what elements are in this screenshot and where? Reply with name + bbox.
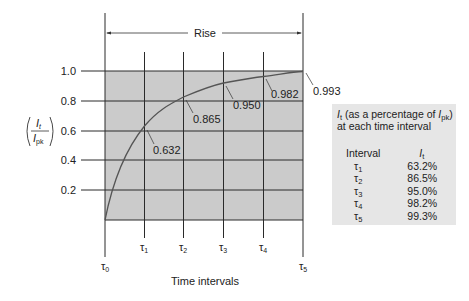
x-axis-label: Time intervals [171, 275, 240, 287]
point-label-2: 0.865 [193, 113, 221, 125]
svg-text:τ1: τ1 [140, 241, 148, 254]
y-tick: 0.4 [61, 154, 76, 166]
col-it: It [407, 147, 456, 160]
table-row: τ286.5% [346, 172, 456, 185]
point-label-4: 0.982 [271, 88, 299, 100]
svg-text:It: It [36, 117, 42, 130]
table-row: τ498.2% [346, 197, 456, 210]
table-row: τ163.2% [346, 160, 456, 173]
rise-label: Rise [194, 27, 216, 39]
y-tick: 0.2 [61, 184, 76, 196]
info-title: It (as a percentage of Ipk) at each time… [337, 108, 455, 132]
table-row: τ599.3% [346, 210, 456, 223]
y-axis-label: It Ipk [27, 117, 53, 146]
point-label-1: 0.632 [153, 144, 181, 156]
svg-text:τ2: τ2 [179, 241, 187, 254]
svg-text:τ0: τ0 [101, 260, 109, 273]
svg-text:τ4: τ4 [259, 241, 267, 254]
y-tick: 1.0 [61, 65, 76, 77]
x-tick-labels: τ0 τ1 τ2 τ3 τ4 τ5 [101, 241, 307, 273]
y-tick: 0.8 [61, 95, 76, 107]
svg-text:τ3: τ3 [219, 241, 227, 254]
table-header: Interval It [346, 147, 456, 160]
col-interval: Interval [346, 147, 407, 160]
svg-text:Ipk: Ipk [33, 132, 44, 146]
svg-text:τ5: τ5 [299, 260, 307, 273]
y-tick: 0.6 [61, 125, 76, 137]
point-label-5: 0.993 [313, 85, 341, 97]
y-tick-labels: 1.0 0.8 0.6 0.4 0.2 [61, 65, 76, 196]
point-label-3: 0.950 [233, 99, 261, 111]
table-row: τ395.0% [346, 185, 456, 198]
percentage-info-box: It (as a percentage of Ipk) at each time… [332, 104, 456, 225]
percentage-table: Interval It τ163.2% τ286.5% τ395.0% τ498… [346, 147, 456, 222]
